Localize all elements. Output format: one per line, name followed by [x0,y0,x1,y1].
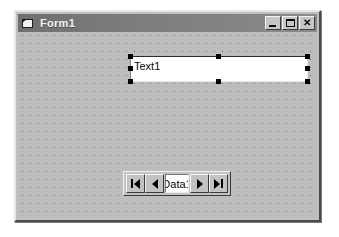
resize-handle-bottom-left[interactable] [128,79,133,84]
move-previous-button[interactable] [145,174,164,193]
textbox-control-selection[interactable]: Text1 [130,56,308,82]
move-first-button[interactable] [126,174,145,193]
close-icon: ✕ [303,18,311,28]
move-next-button[interactable] [190,174,209,193]
maximize-button[interactable] [282,16,298,30]
next-record-icon [197,179,203,188]
close-button[interactable]: ✕ [299,16,315,30]
resize-handle-top-right[interactable] [305,54,310,59]
maximize-icon [286,19,295,27]
textbox-value: Text1 [134,60,160,72]
first-record-icon [131,179,140,188]
previous-record-icon [152,179,158,188]
minimize-icon [269,25,276,27]
resize-handle-top-left[interactable] [128,54,133,59]
resize-handle-middle-left[interactable] [128,66,133,71]
window-controls: ✕ [265,16,315,30]
data-control[interactable]: Data1 [123,171,231,196]
window-title: Form1 [40,17,265,30]
data-control-caption: Data1 [165,174,189,193]
minimize-button[interactable] [265,16,281,30]
form-client-area[interactable]: Text1 Data1 [18,32,317,218]
last-record-icon [214,179,223,188]
form-document-icon [21,17,35,30]
title-bar[interactable]: Form1 ✕ [18,14,317,32]
form-designer-window[interactable]: Form1 ✕ Text1 [14,10,321,222]
resize-handle-middle-right[interactable] [305,66,310,71]
move-last-button[interactable] [209,174,228,193]
resize-handle-bottom-right[interactable] [305,79,310,84]
resize-handle-bottom-center[interactable] [216,79,221,84]
resize-handle-top-center[interactable] [216,54,221,59]
